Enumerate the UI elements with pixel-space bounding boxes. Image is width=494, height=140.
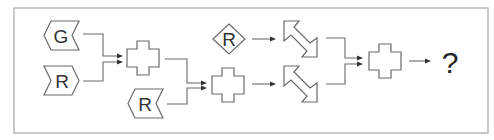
connector-darrow1-to-cross3 <box>326 38 357 58</box>
arrowhead-icon <box>270 37 276 42</box>
r-chevron-left-node: R <box>128 89 163 118</box>
g-label: G <box>54 26 69 47</box>
connector-darrow2-to-cross3 <box>326 64 357 84</box>
diagonal-double-arrow-icon <box>284 66 317 102</box>
connector-cross1-to-cross2 <box>165 59 201 83</box>
connector-r-to-cross1 <box>83 62 117 81</box>
cross-1-icon <box>127 41 159 75</box>
r-chevron-right-node: R <box>44 66 79 95</box>
arrowhead-icon <box>117 54 123 59</box>
diagram-frame <box>14 8 488 133</box>
r-diamond-node: R <box>213 24 245 54</box>
r-label-3: R <box>222 29 236 50</box>
r-label-2: R <box>138 94 152 115</box>
arrowhead-icon <box>117 60 123 65</box>
arrowhead-icon <box>201 86 207 91</box>
arrowhead-icon <box>357 56 363 61</box>
arrowhead-icon <box>201 81 207 86</box>
diagonal-double-arrow-icon <box>284 21 317 57</box>
r-label-1: R <box>55 71 69 92</box>
cross-2-icon <box>212 68 244 102</box>
cross-3-icon <box>369 44 401 78</box>
arrowhead-icon <box>357 62 363 67</box>
g-chevron-node: G <box>44 21 79 50</box>
question-mark-output: ? <box>442 46 459 79</box>
arrowhead-icon <box>425 59 431 64</box>
puzzle-diagram: G R R R ? <box>0 0 494 140</box>
arrowhead-icon <box>270 82 276 87</box>
connector-r-to-cross2 <box>167 88 201 104</box>
connector-g-to-cross1 <box>83 34 117 56</box>
